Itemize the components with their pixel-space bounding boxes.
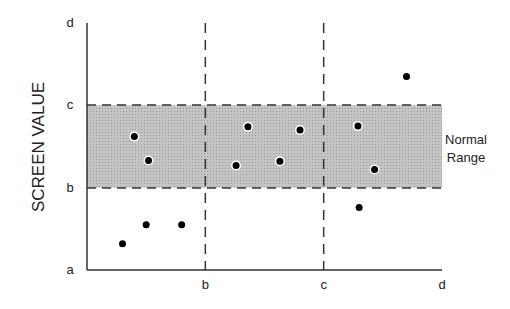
y-tick-label: c	[67, 97, 74, 112]
data-point	[233, 162, 240, 169]
data-point	[403, 73, 410, 80]
data-point	[276, 158, 283, 165]
y-tick-labels: abcd	[66, 15, 74, 277]
data-point	[354, 122, 361, 129]
x-tick-label: d	[438, 277, 445, 292]
x-tick-label: c	[320, 277, 327, 292]
y-tick-label: a	[66, 262, 74, 277]
data-point	[297, 127, 304, 134]
data-point	[178, 221, 185, 228]
data-point	[145, 157, 152, 164]
x-tick-labels: bcd	[202, 277, 446, 292]
data-point	[131, 133, 138, 140]
data-point	[356, 204, 363, 211]
y-tick-label: d	[66, 15, 73, 30]
data-point	[143, 221, 150, 228]
data-point	[371, 166, 378, 173]
x-tick-label: b	[202, 277, 209, 292]
data-point	[244, 123, 251, 130]
normal-range-label-line1: Normal	[445, 132, 487, 147]
y-axis-label: SCREEN VALUE	[29, 82, 48, 212]
data-point	[119, 240, 126, 247]
normal-range-band	[87, 105, 442, 187]
scatter-chart: abcd bcd SCREEN VALUE Normal Range	[0, 0, 510, 309]
y-tick-label: b	[66, 180, 73, 195]
normal-range-label-line2: Range	[447, 150, 485, 165]
